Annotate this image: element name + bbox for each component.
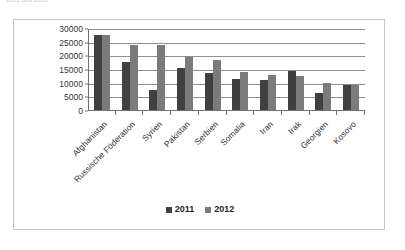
bar-2012 bbox=[240, 72, 248, 111]
bar-2011 bbox=[315, 93, 323, 111]
bar-group bbox=[116, 29, 144, 111]
bar-2011 bbox=[94, 35, 102, 111]
bar-2011 bbox=[205, 73, 213, 111]
bar-group bbox=[282, 29, 310, 111]
legend-entry-2012: 2012 bbox=[205, 205, 234, 214]
legend-label: 2011 bbox=[175, 205, 195, 214]
x-axis-label-cell: Pakistan bbox=[171, 113, 199, 183]
y-axis-labels: 050001000015000200002500030000 bbox=[40, 24, 86, 116]
bar-2011 bbox=[177, 68, 185, 111]
bar-2011 bbox=[288, 71, 296, 111]
x-axis-label-cell: Russische Föderation bbox=[116, 113, 144, 183]
bar-2012 bbox=[268, 75, 276, 111]
legend-label: 2012 bbox=[214, 205, 234, 214]
y-axis-tick-label: 15000 bbox=[59, 66, 83, 75]
x-axis-category-label: Irak bbox=[286, 119, 303, 136]
bar-group bbox=[337, 29, 365, 111]
bar-group bbox=[143, 29, 171, 111]
bar-2011 bbox=[149, 90, 157, 111]
y-axis-line bbox=[88, 29, 89, 111]
legend-swatch-icon bbox=[205, 207, 211, 213]
bar-2012 bbox=[296, 76, 304, 111]
bar-2012 bbox=[157, 45, 165, 111]
top-caption: 2011 und 2012 bbox=[6, 0, 48, 3]
bar-group bbox=[227, 29, 255, 111]
y-axis-tick-label: 20000 bbox=[59, 52, 83, 61]
y-axis-tick-label: 0 bbox=[78, 107, 83, 116]
x-axis-label-cell: Georgien bbox=[310, 113, 338, 183]
y-axis-tick-label: 5000 bbox=[64, 93, 83, 102]
bar-group bbox=[88, 29, 116, 111]
x-axis-label-cell: Kosovo bbox=[337, 113, 365, 183]
bar-2012 bbox=[213, 60, 221, 111]
bar-2011 bbox=[232, 79, 240, 111]
bar-group bbox=[254, 29, 282, 111]
x-axis-label-cell: Somalia bbox=[227, 113, 255, 183]
bars-layer bbox=[88, 29, 365, 111]
chart-legend: 20112012 bbox=[14, 205, 386, 214]
legend-entry-2011: 2011 bbox=[166, 205, 195, 214]
bar-group bbox=[171, 29, 199, 111]
bar-2012 bbox=[185, 57, 193, 111]
x-axis-category-label: Syrien bbox=[140, 119, 164, 143]
y-axis-tick-label: 25000 bbox=[59, 38, 83, 47]
y-axis-tick-label: 30000 bbox=[59, 25, 83, 34]
x-axis-label-cell: Iran bbox=[254, 113, 282, 183]
bar-2012 bbox=[323, 83, 331, 111]
bar-2012 bbox=[351, 85, 359, 111]
bar-group bbox=[199, 29, 227, 111]
bar-2012 bbox=[130, 45, 138, 111]
bar-group bbox=[310, 29, 338, 111]
bar-2011 bbox=[122, 62, 130, 111]
plot-area bbox=[88, 29, 365, 111]
x-axis-category-label: Iran bbox=[258, 119, 275, 136]
bar-2011 bbox=[343, 85, 351, 111]
x-axis-category-labels: AfghanistanRussische FöderationSyrienPak… bbox=[88, 113, 365, 183]
legend-swatch-icon bbox=[166, 207, 172, 213]
bar-2011 bbox=[260, 80, 268, 111]
bar-2012 bbox=[102, 35, 110, 111]
chart-frame: 050001000015000200002500030000 Afghanist… bbox=[13, 19, 385, 230]
y-axis-tick-label: 10000 bbox=[59, 79, 83, 88]
x-axis-label-cell: Serbien bbox=[199, 113, 227, 183]
